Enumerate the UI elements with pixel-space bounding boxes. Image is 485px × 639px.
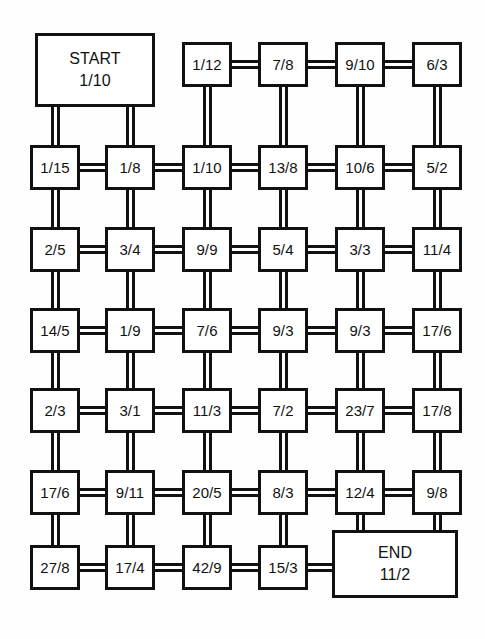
node-label: 15/3 — [268, 559, 298, 577]
connector-horizontal — [78, 488, 107, 497]
connector-horizontal — [306, 245, 337, 254]
connector-horizontal — [153, 245, 184, 254]
connector-horizontal — [78, 245, 107, 254]
start-label: START — [69, 50, 120, 69]
node-label: 3/1 — [119, 402, 140, 420]
connector-horizontal — [306, 60, 337, 69]
node-label: 23/7 — [345, 402, 375, 420]
connector-end-stem — [306, 563, 334, 572]
connector-horizontal — [383, 326, 414, 335]
connector-vertical — [203, 270, 212, 310]
node-label: 17/4 — [115, 559, 145, 577]
node-label: 3/3 — [349, 241, 370, 259]
node-r1c3[interactable]: 1/12 — [182, 42, 232, 87]
node-r7c2[interactable]: 17/4 — [105, 545, 155, 590]
node-r2c1[interactable]: 1/15 — [30, 145, 80, 190]
node-label: 9/10 — [345, 56, 375, 74]
connector-vertical — [203, 351, 212, 390]
node-r5c5[interactable]: 23/7 — [335, 388, 385, 433]
connector-vertical — [356, 351, 365, 390]
connector-vertical — [51, 351, 60, 390]
node-r3c1[interactable]: 2/5 — [30, 227, 80, 272]
node-r4c1[interactable]: 14/5 — [30, 308, 80, 353]
node-label: 17/8 — [422, 402, 452, 420]
node-r4c2[interactable]: 1/9 — [105, 308, 155, 353]
node-r3c6[interactable]: 11/4 — [412, 227, 462, 272]
connector-horizontal — [306, 326, 337, 335]
node-r6c2[interactable]: 9/11 — [105, 470, 155, 515]
node-r3c4[interactable]: 5/4 — [258, 227, 308, 272]
start-node[interactable]: START1/10 — [35, 33, 155, 107]
connector-start-stem — [126, 105, 135, 147]
node-r2c5[interactable]: 10/6 — [335, 145, 385, 190]
node-label: 6/3 — [426, 56, 447, 74]
node-label: 7/2 — [272, 402, 293, 420]
node-label: 1/10 — [192, 159, 222, 177]
node-r1c6[interactable]: 6/3 — [412, 42, 462, 87]
end-node[interactable]: END11/2 — [332, 530, 458, 598]
node-label: 9/11 — [116, 484, 144, 502]
node-r2c3[interactable]: 1/10 — [182, 145, 232, 190]
connector-horizontal — [153, 163, 184, 172]
connector-vertical — [203, 513, 212, 547]
connector-horizontal — [153, 488, 184, 497]
node-label: 9/3 — [349, 322, 370, 340]
node-r4c5[interactable]: 9/3 — [335, 308, 385, 353]
connector-vertical — [433, 351, 442, 390]
connector-vertical — [126, 431, 135, 472]
connector-vertical — [51, 188, 60, 229]
node-r7c3[interactable]: 42/9 — [182, 545, 232, 590]
node-r4c3[interactable]: 7/6 — [182, 308, 232, 353]
node-r6c1[interactable]: 17/6 — [30, 470, 80, 515]
node-label: 17/6 — [40, 484, 70, 502]
node-r1c4[interactable]: 7/8 — [258, 42, 308, 87]
node-label: 11/3 — [193, 402, 221, 420]
connector-horizontal — [153, 406, 184, 415]
node-r3c3[interactable]: 9/9 — [182, 227, 232, 272]
connector-vertical — [126, 270, 135, 310]
node-r3c2[interactable]: 3/4 — [105, 227, 155, 272]
node-r5c6[interactable]: 17/8 — [412, 388, 462, 433]
connector-vertical — [126, 513, 135, 547]
node-label: 8/3 — [272, 484, 293, 502]
connector-vertical — [51, 513, 60, 547]
connector-start-stem — [51, 105, 60, 147]
node-r6c6[interactable]: 9/8 — [412, 470, 462, 515]
diagram-canvas: 1/127/89/106/31/151/81/1013/810/65/22/53… — [0, 0, 485, 639]
node-label: 5/2 — [426, 159, 447, 177]
node-r2c4[interactable]: 13/8 — [258, 145, 308, 190]
node-r1c5[interactable]: 9/10 — [335, 42, 385, 87]
connector-horizontal — [383, 488, 414, 497]
node-r5c3[interactable]: 11/3 — [182, 388, 232, 433]
end-value: 11/2 — [380, 566, 410, 585]
connector-vertical — [279, 270, 288, 310]
node-r5c2[interactable]: 3/1 — [105, 388, 155, 433]
node-label: 2/5 — [44, 241, 65, 259]
node-r6c3[interactable]: 20/5 — [182, 470, 232, 515]
node-r7c4[interactable]: 15/3 — [258, 545, 308, 590]
connector-horizontal — [230, 326, 260, 335]
node-r7c1[interactable]: 27/8 — [30, 545, 80, 590]
connector-horizontal — [383, 60, 414, 69]
node-r4c4[interactable]: 9/3 — [258, 308, 308, 353]
connector-vertical — [279, 431, 288, 472]
connector-horizontal — [78, 326, 107, 335]
node-r5c4[interactable]: 7/2 — [258, 388, 308, 433]
node-r6c4[interactable]: 8/3 — [258, 470, 308, 515]
connector-horizontal — [230, 488, 260, 497]
node-r3c5[interactable]: 3/3 — [335, 227, 385, 272]
connector-horizontal — [383, 245, 414, 254]
node-r5c1[interactable]: 2/3 — [30, 388, 80, 433]
node-label: 9/8 — [426, 484, 447, 502]
connector-vertical — [356, 270, 365, 310]
node-r6c5[interactable]: 12/4 — [335, 470, 385, 515]
node-r2c2[interactable]: 1/8 — [105, 145, 155, 190]
connector-horizontal — [306, 406, 337, 415]
node-r4c6[interactable]: 17/6 — [412, 308, 462, 353]
connector-horizontal — [78, 563, 107, 572]
connector-vertical — [126, 188, 135, 229]
node-label: 1/12 — [192, 56, 222, 74]
node-label: 7/8 — [272, 56, 293, 74]
node-r2c6[interactable]: 5/2 — [412, 145, 462, 190]
connector-vertical — [203, 85, 212, 147]
